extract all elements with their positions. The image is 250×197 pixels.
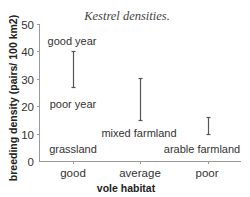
y-tick-40: 40 [21, 46, 34, 58]
annotation-mixed-farmland: mixed farmland [101, 127, 176, 139]
kestrel-density-chart: Kestrel densities. 50 40 30 20 10 0 good… [0, 0, 250, 197]
y-tick-labels: 50 40 30 20 10 0 [21, 19, 34, 168]
x-tick-good: good [60, 167, 86, 179]
annotation-poor-year: poor year [50, 98, 97, 110]
annotation-arable-farmland: arable farmland [164, 143, 240, 155]
x-tick-poor: poor [195, 167, 218, 179]
range-bar-good [72, 52, 76, 88]
range-bar-average [139, 79, 143, 121]
x-tick-average: average [119, 167, 161, 179]
y-tick-50: 50 [21, 19, 34, 31]
y-tick-10: 10 [21, 129, 34, 141]
chart-title: Kestrel densities. [83, 9, 170, 23]
annotation-grassland: grassland [49, 143, 97, 155]
annotation-good-year: good year [48, 35, 97, 47]
y-tick-30: 30 [21, 74, 34, 86]
y-tick-20: 20 [21, 101, 34, 113]
y-tick-0: 0 [28, 156, 34, 168]
range-bar-poor [207, 118, 211, 135]
x-tick-labels: good average poor [60, 167, 218, 179]
y-axis-title: breeding density (pairs/ 100 km2) [7, 15, 19, 181]
x-axis-title: vole habitat [97, 182, 156, 194]
